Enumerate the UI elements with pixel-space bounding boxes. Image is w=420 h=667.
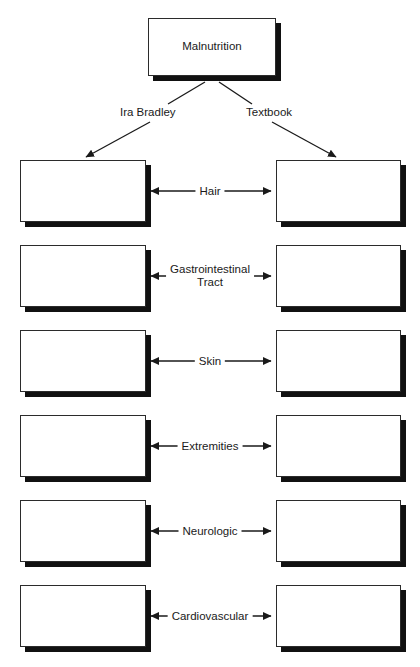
answer-box-left-gastrointestinal-tract[interactable] [20,245,146,307]
answer-box-right-hair[interactable] [276,160,401,222]
answer-box-right-neurologic[interactable] [276,500,401,562]
row-label-cardiovascular: Cardiovascular [168,610,253,623]
answer-box-right-extremities[interactable] [276,415,401,477]
row-connectors [151,191,271,616]
row-label-gastrointestinal-tract: Gastrointestinal Tract [166,263,254,289]
branch-line-ira-bradley [86,82,205,157]
row-label-hair: Hair [195,185,224,198]
answer-box-right-gastrointestinal-tract[interactable] [276,245,401,307]
row-label-skin: Skin [195,355,225,368]
answer-box-right-cardiovascular[interactable] [276,585,401,647]
answer-box-left-cardiovascular[interactable] [20,585,146,647]
branch-label-textbook: Textbook [243,106,295,118]
diagram-canvas: Malnutrition Ira Bradley Textbook Hair G… [0,0,420,667]
answer-box-left-skin[interactable] [20,330,146,392]
answer-box-left-hair[interactable] [20,160,146,222]
node-malnutrition-label: Malnutrition [182,40,241,54]
branch-label-ira-bradley: Ira Bradley [117,106,179,118]
answer-box-left-neurologic[interactable] [20,500,146,562]
branch-line-textbook [219,82,336,157]
row-label-extremities: Extremities [178,440,243,453]
answer-box-left-extremities[interactable] [20,415,146,477]
row-label-neurologic: Neurologic [179,525,242,538]
answer-box-right-skin[interactable] [276,330,401,392]
node-malnutrition[interactable]: Malnutrition [148,18,276,76]
